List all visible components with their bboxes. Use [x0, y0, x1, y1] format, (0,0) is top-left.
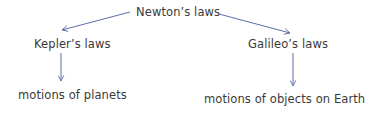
- node-galileos-laws: Galileo’s laws: [248, 37, 328, 51]
- node-motions-of-objects-on-earth: motions of objects on Earth: [204, 92, 365, 106]
- arrow-newton-to-galileo: [219, 14, 290, 33]
- node-motions-of-planets: motions of planets: [18, 88, 127, 102]
- arrow-newton-to-kepler: [62, 12, 130, 30]
- node-keplers-laws: Kepler’s laws: [34, 37, 111, 51]
- node-newtons-laws: Newton’s laws: [136, 5, 220, 19]
